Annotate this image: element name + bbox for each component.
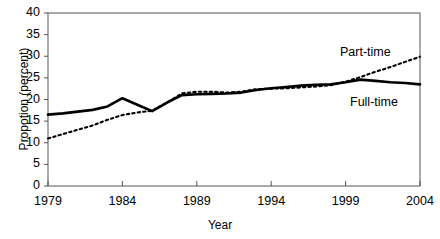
series-label-part-time: Part-time [340,46,391,59]
y-axis-title: Propotion (percent) [17,24,31,174]
x-tick-label: 1999 [316,195,376,208]
x-axis-title: Year [0,218,440,232]
x-tick-label: 1994 [241,195,301,208]
x-tick-label: 1989 [167,195,227,208]
chart-figure: 0510152025303540 19791984198919941999200… [0,0,440,239]
y-tick-label: 40 [6,6,40,19]
x-tick-label: 1979 [18,195,78,208]
x-tick-label: 1984 [92,195,152,208]
x-tick-label: 2004 [390,195,440,208]
y-tick-label: 0 [6,179,40,192]
series-label-full-time: Full-time [350,96,398,109]
